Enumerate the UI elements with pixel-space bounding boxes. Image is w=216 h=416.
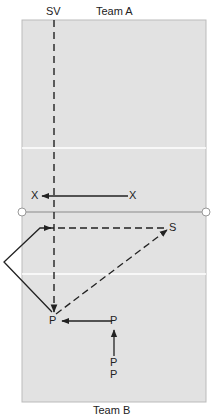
- player-x-right: X: [129, 189, 136, 201]
- net-post-left: [18, 208, 26, 216]
- player-p-mid: P: [110, 314, 117, 326]
- team-b-label: Team B: [93, 404, 130, 416]
- player-x-left: X: [31, 189, 38, 201]
- player-p-left: P: [49, 314, 56, 326]
- player-p-bottom-2: P: [110, 368, 117, 380]
- player-setter: S: [169, 221, 176, 233]
- net-post-right: [202, 208, 210, 216]
- player-p-bottom-1: P: [110, 356, 117, 368]
